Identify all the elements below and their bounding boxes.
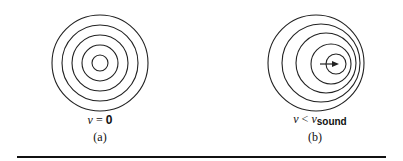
wavefront-ring — [82, 45, 118, 81]
var-v: v — [293, 112, 298, 126]
wavefront-ring — [62, 25, 138, 101]
wavefront-ring — [92, 55, 108, 71]
wavefront-ring — [72, 35, 128, 91]
var-v-rhs: v — [311, 112, 316, 126]
var-v: v — [88, 113, 93, 127]
panel-a-wavefronts — [52, 15, 148, 111]
panel-a-caption: (a) — [85, 130, 115, 145]
panel-a-equation: v = 0 — [80, 113, 120, 128]
panel-b-equation: v < vsound — [285, 112, 355, 127]
velocity-arrow-icon — [320, 61, 339, 67]
panel-b-wavefronts — [268, 15, 364, 111]
wavefront-ring — [282, 24, 360, 102]
subscript-sound: sound — [317, 116, 347, 127]
equals-sign: = — [96, 113, 103, 127]
less-than-sign: < — [302, 112, 309, 126]
value-zero: 0 — [106, 113, 113, 127]
wavefront-ring — [52, 15, 148, 111]
panel-b-caption: (b) — [300, 130, 330, 145]
doppler-diagram — [0, 0, 403, 161]
